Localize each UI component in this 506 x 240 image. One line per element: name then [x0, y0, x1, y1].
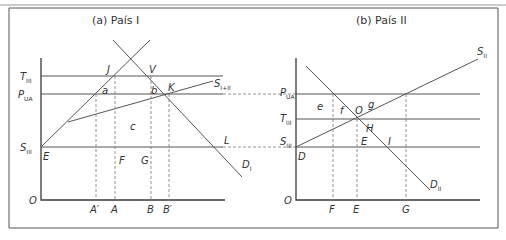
x-label-b: B — [147, 204, 154, 215]
point-o: O — [355, 105, 363, 116]
point-e-b: E — [361, 136, 368, 147]
panel-b-origin: O — [284, 195, 292, 206]
point-j: J — [105, 64, 110, 75]
label-s-iii: SIII — [20, 142, 32, 155]
point-v: V — [149, 64, 157, 75]
area-g: g — [368, 99, 374, 110]
point-e: E — [43, 151, 50, 162]
label-d-i: DI — [242, 159, 252, 172]
supply-curve-ii — [296, 59, 478, 147]
point-g: G — [141, 155, 149, 166]
label-s-iii-b: SIII — [280, 136, 292, 149]
point-h: H — [366, 123, 374, 134]
trade-diagram: (a) País I O TIII PUA SIII A′ A B B′ J — [0, 0, 506, 240]
area-e: e — [317, 101, 323, 112]
area-f: f — [340, 105, 345, 116]
x-label-g: G — [402, 204, 410, 215]
x-label-a: A — [110, 204, 118, 215]
label-s-i-ii: SI+II — [214, 78, 231, 91]
point-f: F — [119, 155, 125, 166]
panel-b-axes — [296, 58, 480, 200]
supply-curve-i-ii — [68, 81, 213, 122]
x-label-b-prime: B′ — [163, 204, 173, 215]
area-b: b — [151, 85, 157, 96]
area-c: c — [130, 121, 136, 132]
area-a: a — [102, 85, 108, 96]
x-label-e: E — [353, 204, 360, 215]
label-p-ua: PUA — [18, 89, 33, 102]
panel-b: (b) País II O PUA TIII SIII F E G e f O … — [280, 14, 487, 215]
panel-a-title: (a) País I — [92, 14, 139, 27]
label-s-ii: SII — [477, 46, 487, 59]
label-t-iii-b: TIII — [280, 113, 292, 126]
label-p-ua-b: PUA — [280, 87, 295, 100]
label-d-ii: DII — [430, 179, 441, 192]
panel-a-origin: O — [29, 195, 37, 206]
point-i: I — [388, 136, 391, 147]
demand-curve-i — [113, 40, 242, 177]
label-t-iii: TIII — [20, 71, 32, 84]
point-d: D — [298, 151, 306, 162]
point-l: L — [224, 135, 230, 146]
x-label-f: F — [329, 204, 335, 215]
panel-a: (a) País I O TIII PUA SIII A′ A B B′ J — [18, 14, 296, 215]
panel-b-title: (b) País II — [356, 14, 407, 27]
x-label-a-prime: A′ — [89, 204, 100, 215]
